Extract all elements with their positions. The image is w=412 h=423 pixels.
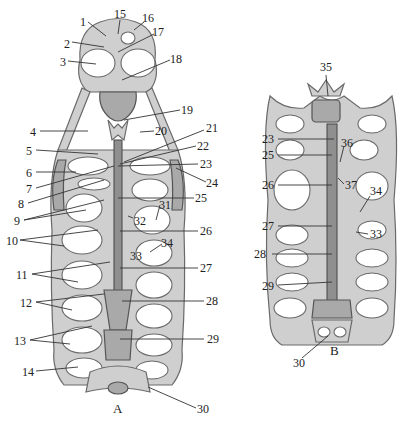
panel-b-skeleton xyxy=(265,80,396,345)
callout-25: 25 xyxy=(195,192,207,204)
callout-3: 3 xyxy=(60,56,66,68)
callout-16: 16 xyxy=(142,12,154,24)
callout-15: 15 xyxy=(114,8,126,20)
callout-4: 4 xyxy=(30,126,36,138)
callout-28: 28 xyxy=(206,295,218,307)
callout-b-26: 26 xyxy=(262,179,274,191)
callout-10: 10 xyxy=(6,235,18,247)
callout-11: 11 xyxy=(16,269,28,281)
callout-b-27: 27 xyxy=(262,220,274,232)
callout-b-23: 23 xyxy=(262,133,274,145)
callout-24: 24 xyxy=(206,177,218,189)
callout-b-36: 36 xyxy=(341,137,353,149)
callout-12: 12 xyxy=(20,297,32,309)
callout-b-25: 25 xyxy=(262,149,274,161)
callout-b-30: 30 xyxy=(293,357,305,369)
panel-label-b: B xyxy=(330,343,339,359)
callout-30: 30 xyxy=(197,403,209,415)
callout-b-35: 35 xyxy=(320,61,332,73)
callout-b-28: 28 xyxy=(254,248,266,260)
callout-8: 8 xyxy=(18,198,24,210)
callout-18: 18 xyxy=(170,53,182,65)
callout-17: 17 xyxy=(152,26,164,38)
callout-9: 9 xyxy=(14,215,20,227)
callout-32: 32 xyxy=(134,215,146,227)
callout-b-34: 34 xyxy=(370,185,382,197)
callout-29: 29 xyxy=(207,333,219,345)
callout-2: 2 xyxy=(64,38,70,50)
callout-26: 26 xyxy=(200,225,212,237)
callout-23: 23 xyxy=(200,158,212,170)
callout-27: 27 xyxy=(200,262,212,274)
panel-label-a: A xyxy=(113,401,122,417)
callout-5: 5 xyxy=(26,145,32,157)
callout-22: 22 xyxy=(197,140,209,152)
callout-13: 13 xyxy=(14,335,26,347)
callout-7: 7 xyxy=(26,183,32,195)
callout-6: 6 xyxy=(26,167,32,179)
callout-1: 1 xyxy=(80,16,86,28)
callout-14: 14 xyxy=(22,366,34,378)
callout-21: 21 xyxy=(206,122,218,134)
callout-b-37: 37 xyxy=(345,179,357,191)
callout-b-33: 33 xyxy=(370,228,382,240)
callout-34: 34 xyxy=(161,237,173,249)
callout-33: 33 xyxy=(130,250,142,262)
callout-b-29: 29 xyxy=(262,280,274,292)
callout-19: 19 xyxy=(181,104,193,116)
callout-20: 20 xyxy=(155,125,167,137)
callout-31: 31 xyxy=(159,199,171,211)
